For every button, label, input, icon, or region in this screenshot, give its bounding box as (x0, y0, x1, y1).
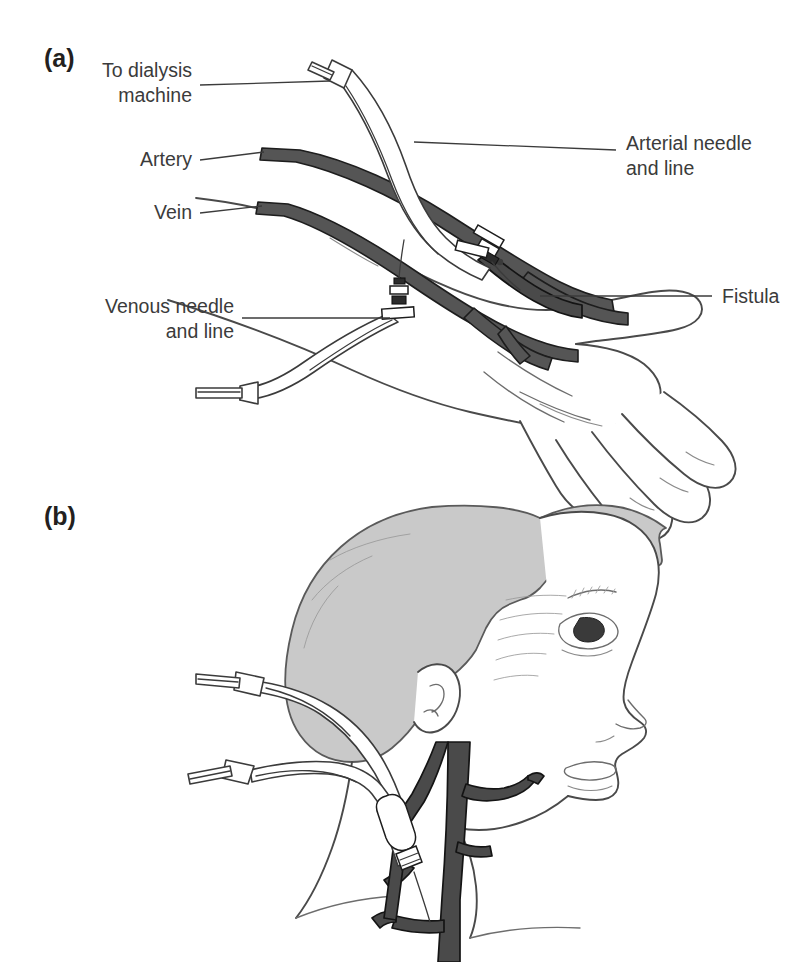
label-arterial-needle-line1: Arterial needle (626, 132, 752, 154)
label-artery: Artery (140, 148, 192, 170)
panel-b: (b) (44, 502, 666, 962)
panel-a-letter: (a) (44, 44, 75, 72)
label-arterial-needle-line2: and line (626, 157, 694, 179)
leader-artery (200, 152, 264, 160)
panel-a-leader-lines (200, 81, 712, 318)
label-venous-needle-line1: Venous needle (105, 295, 234, 317)
label-to-dialysis-machine-line2: machine (118, 84, 192, 106)
leader-to-dialysis-machine (200, 81, 330, 85)
label-venous-needle-line2: and line (166, 320, 234, 342)
figure-vascular-access: (a) (0, 0, 808, 962)
label-to-dialysis-machine-line1: To dialysis (102, 59, 192, 81)
panel-b-letter: (b) (44, 502, 76, 530)
label-vein: Vein (154, 201, 192, 223)
leader-arterial-needle (414, 142, 616, 150)
label-fistula: Fistula (722, 285, 780, 307)
panel-a: (a) (44, 44, 780, 541)
